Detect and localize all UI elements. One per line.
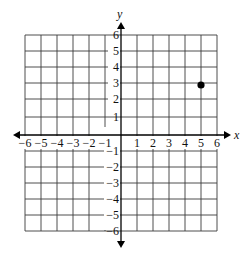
x-tick: 1 [134,136,140,150]
x-axis-right-arrow-icon [224,131,231,139]
y-tick: 2 [113,92,119,106]
x-tick: −4 [51,136,64,150]
y-tick: 4 [113,60,119,74]
x-tick: −3 [67,136,80,150]
y-tick: −3 [106,176,119,190]
y-axis-label: y [116,7,123,21]
x-tick: 3 [166,136,172,150]
x-axis-label: x [233,128,240,142]
y-tick: 3 [113,76,119,90]
y-tick: −5 [106,208,119,222]
data-point [197,81,204,88]
x-tick: −6 [19,136,32,150]
y-tick: 5 [113,44,119,58]
x-tick: 2 [150,136,156,150]
x-tick: 4 [182,136,188,150]
x-tick: −2 [83,136,96,150]
coordinate-plane: y x −6 −5 −4 −3 −2 −1 1 2 3 4 5 6 6 5 4 … [0,0,251,259]
y-tick: 1 [113,110,119,124]
x-tick: 5 [198,136,204,150]
y-tick: −1 [106,144,119,158]
y-tick: −4 [106,192,119,206]
y-axis-down-arrow-icon [117,241,125,248]
y-tick: 6 [113,28,119,42]
y-tick: −6 [106,224,119,238]
y-tick: −2 [106,160,119,174]
axes [18,28,226,241]
x-tick: 6 [214,136,220,150]
x-tick: −5 [35,136,48,150]
